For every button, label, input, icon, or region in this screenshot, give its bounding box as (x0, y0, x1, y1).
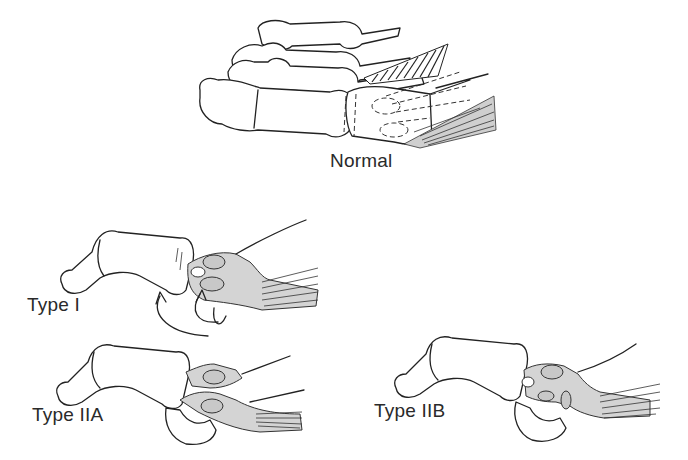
type-1-sesamoid-bottom (200, 277, 224, 291)
type-2b-dorsal-line (578, 344, 636, 372)
type-1-arrow-outer (157, 296, 208, 336)
normal-foot-illustration (200, 21, 496, 148)
type-1-dorsal-line (236, 220, 306, 254)
type-2b-sesamoid-fragment-1 (538, 391, 554, 401)
label-type-2b: Type IIB (374, 400, 445, 422)
type-2b-gap (522, 377, 534, 387)
type-1-gap (191, 267, 205, 277)
type-2b-proximal-phalanx (395, 337, 528, 401)
label-normal: Normal (330, 150, 392, 172)
type-2a-dorsal-lines (242, 356, 304, 402)
type-1-arrow-tail (214, 308, 226, 324)
type-2a-sesamoid-bottom (201, 399, 223, 413)
type-1-illustration (61, 220, 318, 336)
type-2b-sesamoid-fragment-2 (561, 391, 571, 409)
type-2b-metatarsal-head (515, 402, 566, 441)
type-2b-sesamoid-top (541, 365, 563, 379)
type-1-sesamoid-top (203, 255, 225, 269)
type-2a-illustration (57, 345, 304, 445)
label-type-2a: Type IIA (32, 404, 103, 426)
type-1-proximal-phalanx (61, 231, 194, 295)
type-2b-illustration (395, 337, 660, 441)
diagram-canvas (0, 0, 688, 460)
dorsal-outline (430, 74, 488, 94)
type-2a-sesamoid-top (203, 370, 225, 384)
label-type-1: Type I (27, 294, 80, 316)
type-2a-proximal-phalanx (57, 345, 190, 409)
